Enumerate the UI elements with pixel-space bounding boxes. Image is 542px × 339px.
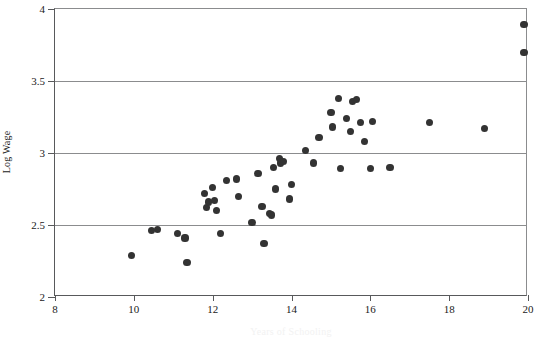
data-point — [270, 164, 277, 171]
x-axis-title: Years of Schooling — [250, 326, 332, 337]
x-tick-mark — [213, 295, 214, 301]
data-point — [258, 203, 265, 210]
data-point — [520, 49, 527, 56]
y-tick-mark — [48, 297, 55, 298]
y-tick-label: 2.5 — [31, 220, 45, 231]
data-point — [367, 165, 374, 172]
data-point — [181, 234, 188, 241]
x-tick-mark — [528, 295, 529, 301]
y-tick-label: 4 — [40, 4, 46, 15]
data-point — [288, 181, 295, 188]
data-point — [481, 125, 488, 132]
x-tick-label: 8 — [52, 304, 58, 315]
data-point — [260, 240, 267, 247]
data-point — [233, 175, 240, 182]
x-tick-label: 12 — [207, 304, 218, 315]
x-tick-label: 20 — [523, 304, 534, 315]
data-point — [302, 147, 309, 154]
data-point — [327, 109, 334, 116]
data-point — [254, 170, 261, 177]
data-point — [209, 184, 216, 191]
data-point — [213, 207, 220, 214]
data-point — [248, 219, 255, 226]
x-tick-mark — [55, 295, 56, 301]
data-point — [217, 230, 224, 237]
data-point — [154, 226, 161, 233]
data-point — [329, 123, 336, 130]
x-tick-label: 18 — [444, 304, 455, 315]
data-point — [128, 252, 135, 259]
x-tick-mark — [134, 295, 135, 301]
data-point — [280, 158, 287, 165]
y-tick-mark — [48, 153, 55, 154]
x-tick-label: 10 — [128, 304, 139, 315]
y-axis-title: Log Wage — [1, 131, 12, 174]
data-point — [223, 177, 230, 184]
data-point — [272, 185, 279, 192]
data-points-group — [55, 9, 526, 295]
data-point — [183, 259, 190, 266]
data-point — [337, 165, 344, 172]
data-point — [361, 138, 368, 145]
data-point — [520, 21, 527, 28]
scatter-plot-figure: Log Wage Years of Schooling 22.533.54 81… — [0, 0, 542, 339]
data-point — [347, 128, 354, 135]
x-tick-mark — [449, 295, 450, 301]
x-tick-mark — [370, 295, 371, 301]
data-point — [335, 95, 342, 102]
plot-area: 22.533.54 8101214161820 — [54, 8, 527, 296]
x-tick-mark — [292, 295, 293, 301]
data-point — [353, 96, 360, 103]
data-point — [369, 118, 376, 125]
data-point — [386, 164, 393, 171]
y-tick-label: 2 — [40, 292, 46, 303]
data-point — [310, 159, 317, 166]
data-point — [315, 134, 322, 141]
data-point — [174, 230, 181, 237]
y-tick-label: 3.5 — [31, 76, 45, 87]
data-point — [211, 197, 218, 204]
data-point — [235, 193, 242, 200]
y-tick-mark — [48, 9, 55, 10]
data-point — [286, 195, 293, 202]
data-point — [201, 190, 208, 197]
y-tick-mark — [48, 81, 55, 82]
data-point — [426, 119, 433, 126]
data-point — [357, 119, 364, 126]
x-tick-label: 14 — [286, 304, 297, 315]
data-point — [343, 115, 350, 122]
y-tick-label: 3 — [40, 148, 46, 159]
x-tick-label: 16 — [365, 304, 376, 315]
data-point — [268, 211, 275, 218]
y-tick-mark — [48, 225, 55, 226]
